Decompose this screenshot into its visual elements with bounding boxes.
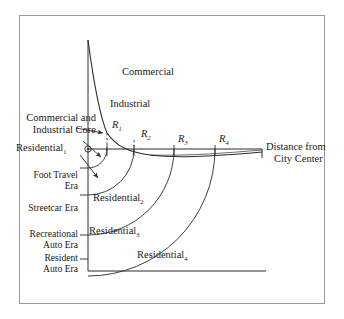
era-label-3-line2: Auto Era — [8, 240, 78, 251]
residential-4-text: Residential — [137, 249, 184, 260]
label-radius-3: R3 — [178, 133, 188, 146]
label-residential-1: Residential1 — [16, 142, 67, 155]
residential-2-sub: 2 — [140, 198, 143, 205]
residential-4-sub: 4 — [184, 255, 187, 262]
label-core-line2: Industrial Core — [14, 124, 96, 136]
era-label-1-line2: Era — [14, 181, 78, 192]
x-axis-label-line2: City Center — [274, 153, 323, 165]
residential-2-text: Residential — [93, 192, 140, 203]
label-residential-3: Residential3 — [89, 225, 140, 238]
era-label-2-line1: Streetcar Era — [10, 203, 78, 214]
residential-3-text: Residential — [89, 225, 136, 236]
ring-arc-2 — [88, 149, 134, 195]
x-axis-label-line1: Distance from — [266, 141, 326, 153]
label-commercial: Commercial — [122, 66, 174, 78]
residential-3-sub: 3 — [136, 231, 139, 238]
label-core-line1: Commercial and — [14, 112, 96, 124]
radius-1-sub: 1 — [118, 125, 121, 132]
label-radius-2: R2 — [141, 128, 151, 141]
label-radius-1: R1 — [112, 119, 122, 132]
label-residential-2: Residential2 — [93, 192, 144, 205]
era-label-4-line2: Auto Era — [14, 264, 78, 275]
figure-container: Commercial Industrial Commercial and Ind… — [0, 0, 344, 319]
residential-1-sub: 1 — [63, 148, 66, 155]
radius-4-sub: 4 — [225, 139, 228, 146]
origin-center-dot — [87, 148, 89, 150]
radius-3-sub: 3 — [184, 139, 187, 146]
radius-2-sub: 2 — [147, 134, 150, 141]
bid-rent-curve-tail — [150, 150, 262, 155]
ring-arc-1 — [88, 149, 107, 168]
label-radius-4: R4 — [219, 133, 229, 146]
label-industrial: Industrial — [110, 98, 150, 110]
residential-1-text: Residential — [16, 142, 63, 153]
label-residential-4: Residential4 — [137, 249, 188, 262]
